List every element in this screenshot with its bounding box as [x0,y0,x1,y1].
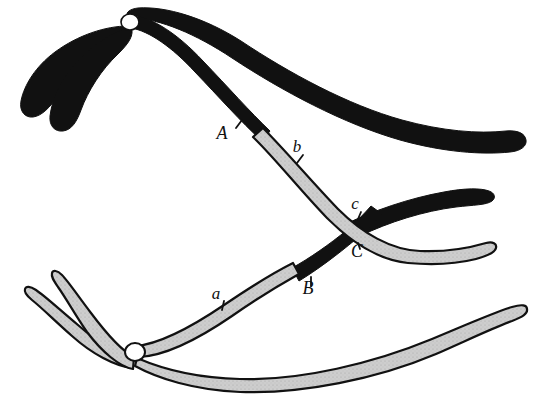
locus-label-B: B [303,278,314,298]
tick-A [236,120,242,128]
locus-label-a: a [212,284,221,303]
dark-upper-right-long-arm [127,8,526,153]
light-lower-right-long-arm [135,305,527,392]
locus-label-b: b [293,137,302,156]
upper-centromere [121,14,139,30]
chromosome-chiasma-figure: A b c C B a [0,0,547,396]
lower-centromere [125,343,145,361]
locus-label-c: c [351,194,359,213]
crossover-chromatid-gray-segment-a [136,263,299,357]
tick-b [297,155,303,163]
locus-label-C: C [351,241,364,261]
figure-canvas: A b c C B a [0,0,547,396]
light-chromosome-group [25,128,527,392]
centromere-group [121,14,145,361]
locus-label-A: A [216,123,229,143]
